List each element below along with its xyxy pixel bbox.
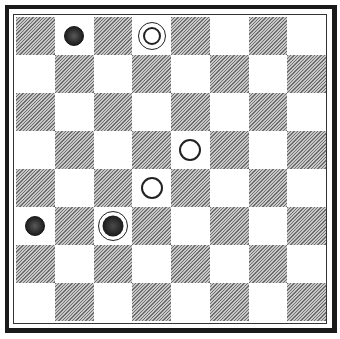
board-square-r1-c3[interactable] [132, 55, 171, 93]
board-square-r4-c1[interactable] [55, 169, 94, 207]
board-square-r2-c7[interactable] [287, 93, 326, 131]
board-square-r2-c2[interactable] [94, 93, 133, 131]
black-man-piece[interactable] [64, 26, 84, 46]
board-square-r1-c1[interactable] [55, 55, 94, 93]
board-square-r1-c0[interactable] [16, 55, 55, 93]
board-square-r3-c4[interactable] [171, 131, 210, 169]
board-square-r6-c5[interactable] [210, 245, 249, 283]
board-square-r2-c4[interactable] [171, 93, 210, 131]
board-square-r5-c1[interactable] [55, 207, 94, 245]
board-square-r1-c4[interactable] [171, 55, 210, 93]
board-square-r0-c1[interactable] [55, 17, 94, 55]
board-square-r3-c0[interactable] [16, 131, 55, 169]
board-square-r0-c5[interactable] [210, 17, 249, 55]
board-square-r7-c0[interactable] [16, 283, 55, 321]
board-square-r5-c7[interactable] [287, 207, 326, 245]
board-square-r7-c3[interactable] [132, 283, 171, 321]
board-square-r4-c5[interactable] [210, 169, 249, 207]
board-square-r6-c4[interactable] [171, 245, 210, 283]
board-square-r3-c5[interactable] [210, 131, 249, 169]
board-square-r2-c5[interactable] [210, 93, 249, 131]
board-square-r5-c5[interactable] [210, 207, 249, 245]
board-square-r6-c3[interactable] [132, 245, 171, 283]
board-square-r2-c3[interactable] [132, 93, 171, 131]
board-square-r6-c7[interactable] [287, 245, 326, 283]
checkers-board [16, 17, 326, 321]
board-square-r2-c0[interactable] [16, 93, 55, 131]
white-man-piece[interactable] [179, 139, 201, 161]
white-king-piece[interactable] [138, 22, 166, 50]
black-man-piece[interactable] [25, 216, 45, 236]
board-square-r1-c6[interactable] [249, 55, 288, 93]
board-square-r5-c2[interactable] [94, 207, 133, 245]
board-square-r4-c3[interactable] [132, 169, 171, 207]
board-square-r5-c6[interactable] [249, 207, 288, 245]
board-square-r6-c1[interactable] [55, 245, 94, 283]
board-square-r0-c4[interactable] [171, 17, 210, 55]
board-square-r7-c7[interactable] [287, 283, 326, 321]
board-square-r6-c2[interactable] [94, 245, 133, 283]
board-square-r0-c7[interactable] [287, 17, 326, 55]
board-square-r0-c0[interactable] [16, 17, 55, 55]
board-square-r3-c7[interactable] [287, 131, 326, 169]
board-square-r3-c1[interactable] [55, 131, 94, 169]
black-king-piece[interactable] [98, 211, 128, 241]
board-square-r3-c6[interactable] [249, 131, 288, 169]
board-square-r2-c1[interactable] [55, 93, 94, 131]
board-square-r4-c2[interactable] [94, 169, 133, 207]
board-square-r0-c3[interactable] [132, 17, 171, 55]
board-square-r1-c2[interactable] [94, 55, 133, 93]
board-square-r3-c2[interactable] [94, 131, 133, 169]
board-square-r7-c2[interactable] [94, 283, 133, 321]
board-square-r4-c7[interactable] [287, 169, 326, 207]
board-square-r4-c6[interactable] [249, 169, 288, 207]
board-square-r1-c5[interactable] [210, 55, 249, 93]
board-square-r7-c4[interactable] [171, 283, 210, 321]
board-square-r5-c3[interactable] [132, 207, 171, 245]
board-square-r7-c1[interactable] [55, 283, 94, 321]
board-square-r4-c0[interactable] [16, 169, 55, 207]
white-man-piece[interactable] [141, 177, 163, 199]
board-square-r0-c6[interactable] [249, 17, 288, 55]
board-square-r6-c6[interactable] [249, 245, 288, 283]
board-square-r6-c0[interactable] [16, 245, 55, 283]
board-square-r4-c4[interactable] [171, 169, 210, 207]
board-square-r5-c4[interactable] [171, 207, 210, 245]
board-square-r7-c5[interactable] [210, 283, 249, 321]
board-square-r1-c7[interactable] [287, 55, 326, 93]
board-square-r3-c3[interactable] [132, 131, 171, 169]
board-square-r7-c6[interactable] [249, 283, 288, 321]
board-square-r0-c2[interactable] [94, 17, 133, 55]
board-square-r5-c0[interactable] [16, 207, 55, 245]
board-square-r2-c6[interactable] [249, 93, 288, 131]
